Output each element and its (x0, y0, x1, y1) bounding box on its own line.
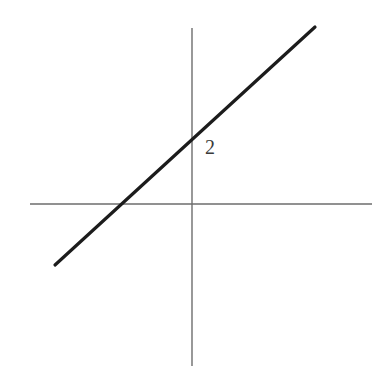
graph-canvas (0, 0, 386, 379)
coordinate-graph-figure: 2 (0, 0, 386, 379)
y-intercept-label: 2 (205, 137, 215, 157)
figure-background (0, 0, 386, 379)
